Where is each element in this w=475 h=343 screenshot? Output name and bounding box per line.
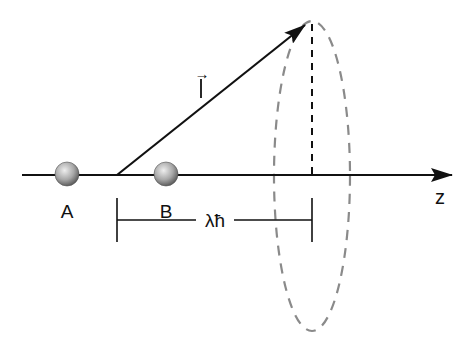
particle-b-label: B: [160, 201, 173, 222]
angular-momentum-diagram: A B λħ z →: [0, 0, 475, 343]
particle-a-label: A: [61, 201, 74, 222]
vector-l-arrow: [117, 25, 305, 175]
vector-l-label-arrow: →: [195, 65, 210, 82]
particle-a: [55, 162, 79, 186]
particle-b: [154, 162, 178, 186]
distance-label: λħ: [205, 210, 225, 231]
z-axis-label: z: [435, 186, 445, 208]
